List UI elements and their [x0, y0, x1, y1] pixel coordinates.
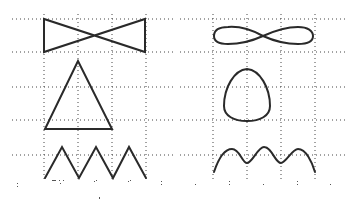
- figure-eight-shape: [214, 27, 313, 44]
- bowtie-shape: [44, 19, 145, 52]
- noise-specks: [17, 180, 331, 199]
- left-grid: [12, 14, 175, 182]
- wave-shape: [214, 147, 315, 172]
- zigzag-shape: [45, 147, 146, 178]
- egg-loop-shape: [224, 69, 270, 121]
- right-grid: [180, 14, 345, 180]
- figure-canvas: [0, 0, 354, 203]
